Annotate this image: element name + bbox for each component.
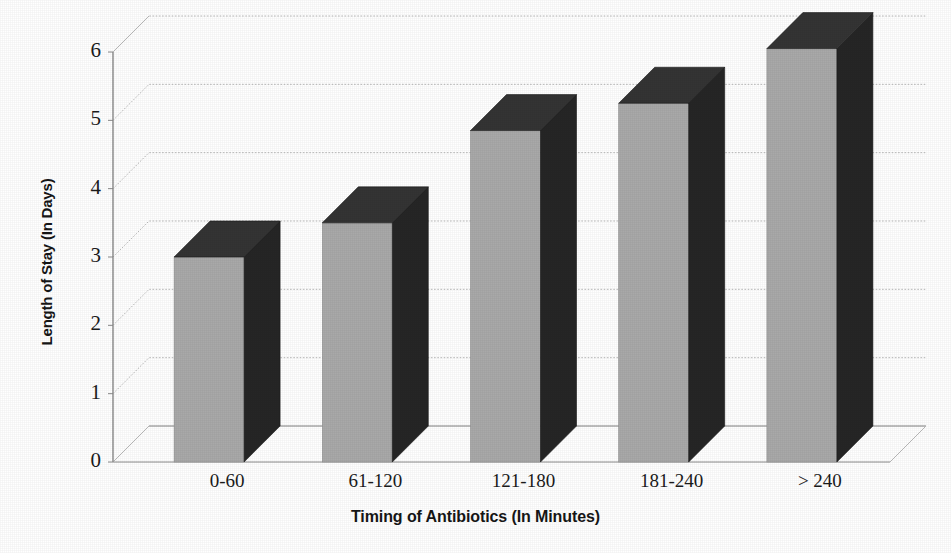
- bar: [619, 67, 725, 462]
- bar: [322, 187, 428, 462]
- y-axis-tick-label: 0: [55, 448, 101, 473]
- x-axis-tick-label: 0-60: [142, 470, 312, 492]
- bar: [767, 13, 873, 462]
- bar-chart: Length of Stay (In Days) Timing of Antib…: [0, 0, 951, 553]
- bar: [471, 95, 577, 462]
- x-axis-tick-label: 181-240: [587, 470, 757, 492]
- x-axis-tick-label: > 240: [735, 470, 905, 492]
- y-axis-tick-label: 5: [55, 106, 101, 131]
- y-axis-tick-label: 4: [55, 175, 101, 200]
- x-axis-tick-label: 121-180: [439, 470, 609, 492]
- y-axis-title: Length of Stay (In Days): [35, 132, 57, 392]
- bar: [174, 221, 280, 462]
- y-axis-title-text: Length of Stay (In Days): [38, 179, 55, 346]
- y-axis-tick-label: 1: [55, 380, 101, 405]
- y-axis-tick-label: 6: [55, 38, 101, 63]
- y-axis-tick-label: 3: [55, 243, 101, 268]
- y-axis-tick-label: 2: [55, 311, 101, 336]
- x-axis-title: Timing of Antibiotics (In Minutes): [0, 508, 951, 526]
- x-axis-tick-label: 61-120: [290, 470, 460, 492]
